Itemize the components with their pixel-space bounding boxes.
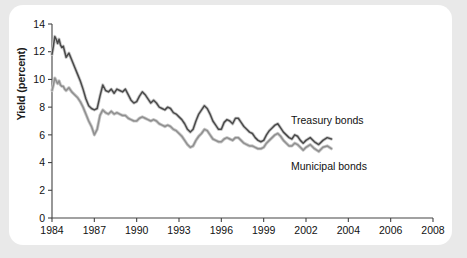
x-tick-label: 1987 (83, 224, 107, 236)
series-halo (52, 36, 331, 144)
y-tick-label: 2 (39, 184, 45, 196)
axes: 0246810121419841987199019931996199920022… (33, 18, 445, 236)
y-tick-label: 6 (39, 129, 45, 141)
x-tick-label: 1984 (40, 224, 64, 236)
series-line-municipal (52, 78, 331, 151)
y-tick-label: 0 (39, 212, 45, 224)
x-tick-label: 2008 (421, 224, 445, 236)
line-chart: 0246810121419841987199019931996199920022… (0, 0, 467, 258)
series-line-treasury (52, 36, 331, 144)
x-tick-label: 2002 (294, 224, 318, 236)
y-axis-label: Yield (percent) (15, 34, 27, 134)
x-tick-label: 1996 (210, 224, 234, 236)
x-tick-label: 2006 (379, 224, 403, 236)
chart-container: Yield (percent) 024681012141984198719901… (0, 0, 467, 258)
x-tick-label: 2004 (337, 224, 361, 236)
x-tick-label: 1993 (167, 224, 191, 236)
annotation-treasury-bonds: Treasury bonds (291, 114, 364, 126)
annotation-municipal-bonds: Municipal bonds (291, 160, 367, 172)
y-tick-label: 10 (33, 73, 45, 85)
series-halo (52, 78, 331, 151)
x-tick-label: 1990 (125, 224, 149, 236)
y-tick-label: 8 (39, 101, 45, 113)
x-tick-label: 1999 (252, 224, 276, 236)
y-tick-label: 12 (33, 45, 45, 57)
y-tick-label: 4 (39, 156, 45, 168)
y-tick-label: 14 (33, 18, 45, 30)
